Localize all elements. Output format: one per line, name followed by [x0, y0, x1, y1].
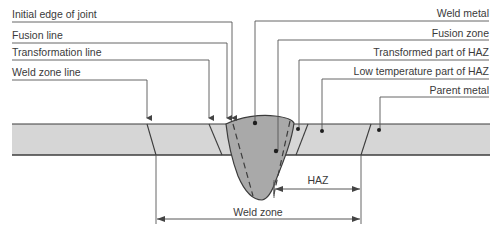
label-parent-metal: Parent metal — [429, 84, 489, 96]
label-fusion-line: Fusion line — [12, 29, 63, 41]
weld-cross-section-diagram: Initial edge of joint Fusion line Transf… — [0, 0, 497, 233]
label-weld-zone-line: Weld zone line — [12, 66, 81, 78]
label-weld-zone: Weld zone — [233, 206, 283, 218]
transformed-haz-dot — [296, 127, 300, 131]
label-transformation-line: Transformation line — [12, 46, 102, 58]
label-low-temperature-part-of-haz: Low temperature part of HAZ — [354, 65, 490, 77]
label-haz: HAZ — [308, 174, 330, 186]
weld-metal-dot — [253, 121, 257, 125]
label-initial-edge-of-joint: Initial edge of joint — [12, 8, 97, 20]
low-temp-haz-dot — [320, 129, 324, 133]
weld-metal — [226, 115, 294, 200]
label-fusion-zone: Fusion zone — [432, 27, 489, 39]
label-transformed-part-of-haz: Transformed part of HAZ — [373, 46, 489, 58]
fusion-zone-dot — [274, 149, 278, 153]
label-weld-metal: Weld metal — [437, 7, 489, 19]
parent-metal-dot — [377, 128, 381, 132]
